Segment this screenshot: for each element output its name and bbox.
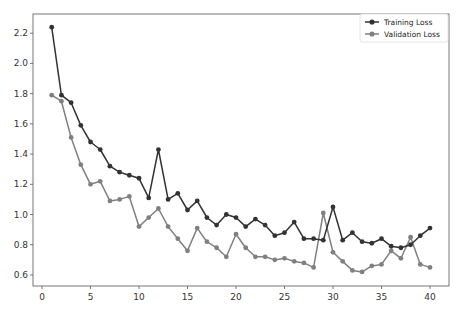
data-point-marker [253,254,258,259]
data-point-marker [117,197,122,202]
data-point-marker [88,140,93,145]
x-tick-label: 40 [424,292,436,302]
data-point-marker [195,199,200,204]
data-point-marker [243,245,248,250]
data-point-marker [59,93,64,98]
x-tick-label: 10 [133,292,145,302]
legend-label-validation: Validation Loss [384,30,440,39]
data-point-marker [224,254,229,259]
data-point-marker [78,162,83,167]
data-point-marker [98,147,103,152]
data-point-marker [369,264,374,269]
data-point-marker [205,215,210,220]
legend-marker-icon [369,19,374,24]
data-point-marker [224,212,229,217]
y-tick-label: 2.2 [14,28,28,38]
data-point-marker [214,245,219,250]
data-point-marker [282,256,287,261]
y-tick-label: 1.6 [14,119,29,129]
data-point-marker [379,262,384,267]
data-point-marker [428,265,433,270]
data-point-marker [59,99,64,104]
data-point-marker [156,206,161,211]
data-point-marker [331,250,336,255]
data-point-marker [398,245,403,250]
data-point-marker [418,262,423,267]
data-point-marker [166,224,171,229]
data-point-marker [166,197,171,202]
data-point-marker [195,226,200,231]
data-point-marker [263,223,268,228]
data-point-marker [69,135,74,140]
data-point-marker [98,179,103,184]
data-point-marker [311,236,316,241]
data-point-marker [69,100,74,105]
data-point-marker [360,270,365,275]
data-point-marker [146,196,151,201]
x-tick-label: 0 [39,292,45,302]
data-point-marker [108,164,113,169]
loss-chart: 0510152025303540 0.60.81.01.21.41.61.82.… [0,0,459,316]
data-point-marker [205,239,210,244]
data-point-marker [389,244,394,249]
y-tick-label: 2.0 [14,58,29,68]
x-tick-label: 30 [327,292,339,302]
chart-background [0,0,459,316]
data-point-marker [301,260,306,265]
data-point-marker [272,233,277,238]
data-point-marker [292,259,297,264]
data-point-marker [234,215,239,220]
data-point-marker [243,224,248,229]
data-point-marker [321,238,326,243]
data-point-marker [117,170,122,175]
x-tick-label: 25 [279,292,290,302]
data-point-marker [175,191,180,196]
y-tick-label: 1.0 [14,210,29,220]
data-point-marker [389,248,394,253]
legend-label-training: Training Loss [383,18,433,27]
data-point-marker [263,254,268,259]
y-tick-label: 1.2 [14,179,28,189]
x-tick-label: 35 [376,292,387,302]
data-point-marker [428,226,433,231]
data-point-marker [175,236,180,241]
data-point-marker [408,242,413,247]
data-point-marker [292,220,297,225]
data-point-marker [108,199,113,204]
y-tick-label: 1.4 [14,149,29,159]
data-point-marker [49,93,54,98]
data-point-marker [272,257,277,262]
data-point-marker [301,236,306,241]
data-point-marker [88,182,93,187]
data-point-marker [321,211,326,216]
data-point-marker [311,265,316,270]
data-point-marker [379,236,384,241]
data-point-marker [340,259,345,264]
y-tick-label: 0.8 [14,240,29,250]
data-point-marker [185,248,190,253]
data-point-marker [398,256,403,261]
data-point-marker [350,230,355,235]
data-point-marker [78,123,83,128]
legend: Training Loss Validation Loss [360,14,448,42]
data-point-marker [360,239,365,244]
data-point-marker [49,25,54,30]
data-point-marker [369,241,374,246]
data-point-marker [137,224,142,229]
x-tick-label: 15 [182,292,193,302]
data-point-marker [253,217,258,222]
data-point-marker [408,235,413,240]
data-point-marker [331,205,336,210]
data-point-marker [418,233,423,238]
data-point-marker [137,176,142,181]
y-tick-label: 1.8 [14,89,29,99]
data-point-marker [214,223,219,228]
data-point-marker [127,173,132,178]
data-point-marker [156,147,161,152]
data-point-marker [185,208,190,213]
data-point-marker [282,230,287,235]
data-point-marker [350,268,355,273]
data-point-marker [146,215,151,220]
data-point-marker [234,232,239,237]
data-point-marker [127,194,132,199]
